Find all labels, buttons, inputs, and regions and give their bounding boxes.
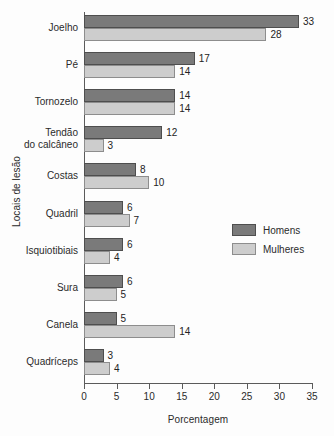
bar-group: 1414 bbox=[84, 86, 312, 112]
plot-area: 33281714141412381067646551434 bbox=[84, 12, 312, 384]
x-tick-label: 20 bbox=[199, 391, 229, 402]
bar-chart: Locais de lesão JoelhoPéTornozeloTendão … bbox=[0, 0, 334, 436]
x-tick-mark bbox=[84, 384, 85, 389]
bar-value-label: 6 bbox=[127, 201, 133, 214]
bar-mulheres bbox=[84, 251, 110, 264]
bar-value-label: 33 bbox=[303, 15, 314, 28]
bar-value-label: 6 bbox=[127, 238, 133, 251]
bar-value-label: 14 bbox=[179, 102, 190, 115]
legend-label: Mulheres bbox=[263, 244, 304, 255]
x-tick-mark bbox=[247, 384, 248, 389]
bar-homens bbox=[84, 126, 162, 139]
chart-legend: HomensMulheres bbox=[232, 222, 304, 260]
category-label: Sura bbox=[0, 282, 78, 294]
bar-value-label: 7 bbox=[134, 214, 140, 227]
bar-homens bbox=[84, 15, 299, 28]
x-tick-label: 5 bbox=[102, 391, 132, 402]
bar-group: 123 bbox=[84, 123, 312, 149]
x-tick-label: 0 bbox=[69, 391, 99, 402]
bar-homens bbox=[84, 275, 123, 288]
bar-value-label: 14 bbox=[179, 325, 190, 338]
bar-homens bbox=[84, 201, 123, 214]
legend-swatch-mulheres bbox=[232, 243, 256, 255]
category-label: Costas bbox=[0, 170, 78, 182]
bar-mulheres bbox=[84, 288, 117, 301]
bar-value-label: 17 bbox=[199, 52, 210, 65]
x-tick-label: 25 bbox=[232, 391, 262, 402]
bar-homens bbox=[84, 312, 117, 325]
bar-value-label: 5 bbox=[121, 288, 127, 301]
x-tick-mark bbox=[312, 384, 313, 389]
bar-group: 1714 bbox=[84, 49, 312, 75]
bar-mulheres bbox=[84, 102, 175, 115]
bar-value-label: 3 bbox=[108, 349, 114, 362]
bar-value-label: 8 bbox=[140, 163, 146, 176]
x-tick-mark bbox=[149, 384, 150, 389]
category-label: Canela bbox=[0, 319, 78, 331]
x-tick-mark bbox=[182, 384, 183, 389]
x-tick-label: 15 bbox=[167, 391, 197, 402]
bar-mulheres bbox=[84, 214, 130, 227]
bar-group: 65 bbox=[84, 272, 312, 298]
bar-homens bbox=[84, 163, 136, 176]
bar-value-label: 12 bbox=[166, 126, 177, 139]
bar-group: 67 bbox=[84, 198, 312, 224]
x-axis-title: Porcentagem bbox=[84, 414, 312, 425]
bar-value-label: 14 bbox=[179, 65, 190, 78]
x-tick-label: 35 bbox=[297, 391, 327, 402]
category-label: Quadríceps bbox=[0, 356, 78, 368]
bar-value-label: 28 bbox=[270, 28, 281, 41]
bar-mulheres bbox=[84, 139, 104, 152]
category-label: Quadril bbox=[0, 208, 78, 220]
bar-value-label: 5 bbox=[121, 312, 127, 325]
category-label: Tornozelo bbox=[0, 96, 78, 108]
y-axis-title: Locais de lesão bbox=[11, 142, 22, 242]
category-label: Pé bbox=[0, 59, 78, 71]
x-tick-mark bbox=[117, 384, 118, 389]
legend-label: Homens bbox=[263, 225, 300, 236]
bar-value-label: 4 bbox=[114, 362, 120, 375]
bar-value-label: 14 bbox=[179, 89, 190, 102]
bar-mulheres bbox=[84, 362, 110, 375]
bar-group: 3328 bbox=[84, 12, 312, 38]
bar-value-label: 10 bbox=[153, 176, 164, 189]
legend-swatch-homens bbox=[232, 224, 256, 236]
bar-homens bbox=[84, 238, 123, 251]
bar-mulheres bbox=[84, 28, 266, 41]
category-label: Joelho bbox=[0, 22, 78, 34]
bar-mulheres bbox=[84, 65, 175, 78]
bar-homens bbox=[84, 89, 175, 102]
bar-mulheres bbox=[84, 325, 175, 338]
x-tick-label: 10 bbox=[134, 391, 164, 402]
bar-homens bbox=[84, 349, 104, 362]
legend-item: Mulheres bbox=[232, 241, 304, 257]
category-label: Isquiotibiais bbox=[0, 245, 78, 257]
legend-item: Homens bbox=[232, 222, 304, 238]
bar-group: 514 bbox=[84, 309, 312, 335]
category-label: Tendão do calcâneo bbox=[0, 127, 78, 151]
bar-value-label: 6 bbox=[127, 275, 133, 288]
x-tick-mark bbox=[214, 384, 215, 389]
bar-homens bbox=[84, 52, 195, 65]
bar-group: 810 bbox=[84, 160, 312, 186]
x-tick-mark bbox=[279, 384, 280, 389]
bar-mulheres bbox=[84, 176, 149, 189]
bar-value-label: 4 bbox=[114, 251, 120, 264]
x-tick-label: 30 bbox=[264, 391, 294, 402]
bar-value-label: 3 bbox=[108, 139, 114, 152]
bar-group: 34 bbox=[84, 346, 312, 372]
